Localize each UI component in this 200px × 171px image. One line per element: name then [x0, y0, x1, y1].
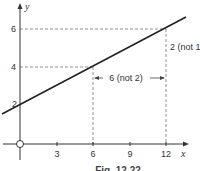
y-tick-6: 6 — [11, 24, 16, 34]
y-axis-label: y — [24, 1, 30, 12]
x-tick-9: 9 — [127, 149, 132, 159]
origin-marker-icon — [17, 141, 24, 148]
rise-note: 2 (not 1) — [170, 42, 200, 52]
y-tick-2: 2 — [12, 99, 17, 109]
x-axis-arrow-icon — [183, 142, 189, 147]
axes — [3, 7, 185, 160]
y-axis-arrow-icon — [18, 3, 23, 9]
x-tick-12: 12 — [161, 149, 171, 159]
run-arrow-right-icon — [160, 76, 165, 80]
x-tick-3: 3 — [54, 149, 59, 159]
data-line — [2, 17, 186, 114]
x-tick-6: 6 — [90, 149, 95, 159]
run-note: 6 (not 2) — [109, 73, 143, 83]
guide-lines — [20, 29, 166, 144]
x-axis-label: x — [180, 148, 186, 159]
run-arrow-left-icon — [94, 76, 99, 80]
figure-caption: Fig. 12.22 — [95, 165, 141, 171]
line-graph: 6 (not 2) 2 (not 1) y x 6 4 2 3 6 9 12 F… — [0, 0, 200, 171]
y-tick-4: 4 — [11, 62, 16, 72]
